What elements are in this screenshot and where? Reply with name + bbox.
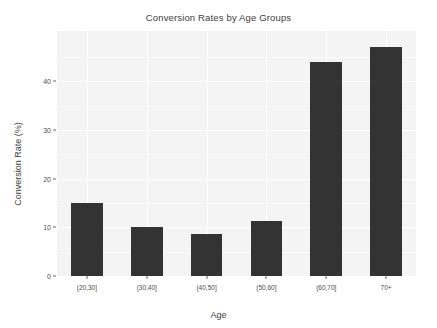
x-tick-mark xyxy=(386,276,387,279)
x-axis-ticks: (20,30](30,40](40,50](50,60](60,70]70+ xyxy=(57,276,416,302)
gridline-major xyxy=(57,179,416,180)
x-tick-mark xyxy=(146,276,147,279)
x-tick-label: (20,30] xyxy=(77,284,97,291)
x-tick-mark xyxy=(326,276,327,279)
chart-title: Conversion Rates by Age Groups xyxy=(0,12,437,23)
bar[interactable] xyxy=(71,203,103,276)
x-tick-mark xyxy=(266,276,267,279)
bar[interactable] xyxy=(370,47,402,276)
gridline-major xyxy=(57,130,416,131)
gridline-minor xyxy=(57,203,416,204)
bar[interactable] xyxy=(191,234,223,276)
x-axis-title: Age xyxy=(0,310,437,320)
x-tick-mark xyxy=(206,276,207,279)
y-axis-ticks: 010203040 xyxy=(26,31,51,276)
x-tick-mark xyxy=(86,276,87,279)
y-tick-mark xyxy=(53,178,56,179)
gridline-major xyxy=(57,81,416,82)
x-tick-label: (30,40] xyxy=(137,284,157,291)
bar[interactable] xyxy=(310,62,342,276)
y-tick-label: 10 xyxy=(29,224,51,231)
y-tick-label: 30 xyxy=(29,126,51,133)
y-tick-mark xyxy=(53,129,56,130)
bar[interactable] xyxy=(131,227,163,276)
y-axis-title: Conversion Rate (%) xyxy=(13,122,23,206)
plot-panel xyxy=(57,31,416,276)
x-tick-label: (50,60] xyxy=(256,284,276,291)
gridline-minor xyxy=(57,57,416,58)
x-tick-label: (60,70] xyxy=(316,284,336,291)
y-tick-mark xyxy=(53,276,56,277)
y-tick-mark xyxy=(53,227,56,228)
y-tick-mark xyxy=(53,81,56,82)
gridline-major xyxy=(57,227,416,228)
y-tick-label: 0 xyxy=(29,273,51,280)
x-tick-label: 70+ xyxy=(381,284,392,291)
bar-chart: Conversion Rates by Age Groups Conversio… xyxy=(0,0,437,328)
bar[interactable] xyxy=(251,221,283,276)
gridline-minor xyxy=(57,154,416,155)
x-tick-label: (40,50] xyxy=(196,284,216,291)
gridline-minor xyxy=(57,106,416,107)
gridline-minor xyxy=(57,252,416,253)
y-tick-label: 20 xyxy=(29,175,51,182)
y-tick-label: 40 xyxy=(29,78,51,85)
